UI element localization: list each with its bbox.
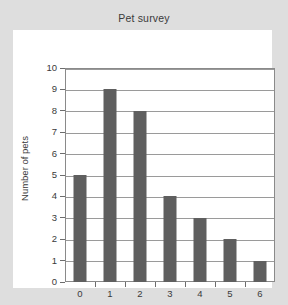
y-axis-tick-mark [60, 239, 65, 240]
y-axis-tick-mark [60, 175, 65, 176]
x-axis-tick-mark [125, 282, 126, 287]
x-axis-tick-mark [185, 282, 186, 287]
x-axis-tick-mark [215, 282, 216, 287]
y-axis-tick-mark [60, 153, 65, 154]
y-axis-tick-label: 2 [35, 233, 57, 244]
y-axis-tick-label: 5 [35, 169, 57, 180]
y-axis-tick-label: 9 [35, 83, 57, 94]
x-axis-tick-label: 6 [245, 288, 275, 299]
x-axis-tick-label: 5 [215, 288, 245, 299]
bar[interactable] [224, 239, 237, 282]
y-axis-tick-label: 0 [35, 276, 57, 287]
y-axis-tick-label: 3 [35, 212, 57, 223]
y-axis-tick-label: 8 [35, 105, 57, 116]
x-axis-tick-mark [95, 282, 96, 287]
y-axis-tick-mark [60, 110, 65, 111]
bar[interactable] [134, 111, 147, 282]
bar-slot [155, 68, 185, 282]
chart-title: Pet survey [0, 12, 288, 24]
y-axis-tick-mark [60, 260, 65, 261]
bar-slot [65, 68, 95, 282]
bar[interactable] [254, 261, 267, 282]
y-axis-tick-mark [60, 217, 65, 218]
bar-slot [185, 68, 215, 282]
x-axis-tick-label: 2 [125, 288, 155, 299]
y-axis-tick-mark [60, 89, 65, 90]
y-axis-tick-label: 7 [35, 126, 57, 137]
bar-slot [245, 68, 275, 282]
x-axis-tick-label: 4 [185, 288, 215, 299]
bar[interactable] [104, 89, 117, 282]
y-axis-tick-mark [60, 282, 65, 283]
bar-slot [95, 68, 125, 282]
y-axis-tick-label: 4 [35, 190, 57, 201]
x-axis-tick-label: 1 [95, 288, 125, 299]
y-axis-tick-mark [60, 132, 65, 133]
bar[interactable] [164, 196, 177, 282]
y-axis-title: Number of pets [19, 134, 30, 204]
bar[interactable] [194, 218, 207, 282]
chart-panel: Number of pets 0123456789100123456 Numbe… [13, 30, 272, 288]
y-axis-tick-label: 10 [35, 62, 57, 73]
x-axis-tick-label: 3 [155, 288, 185, 299]
bars-layer [65, 68, 275, 282]
y-axis-tick-mark [60, 68, 65, 69]
x-axis-tick-mark [155, 282, 156, 287]
x-axis-tick-mark [245, 282, 246, 287]
bar-slot [125, 68, 155, 282]
bar-slot [215, 68, 245, 282]
x-axis-tick-label: 0 [65, 288, 95, 299]
bar[interactable] [74, 175, 87, 282]
y-axis-tick-label: 1 [35, 255, 57, 266]
y-axis-tick-mark [60, 196, 65, 197]
y-axis-tick-label: 6 [35, 148, 57, 159]
